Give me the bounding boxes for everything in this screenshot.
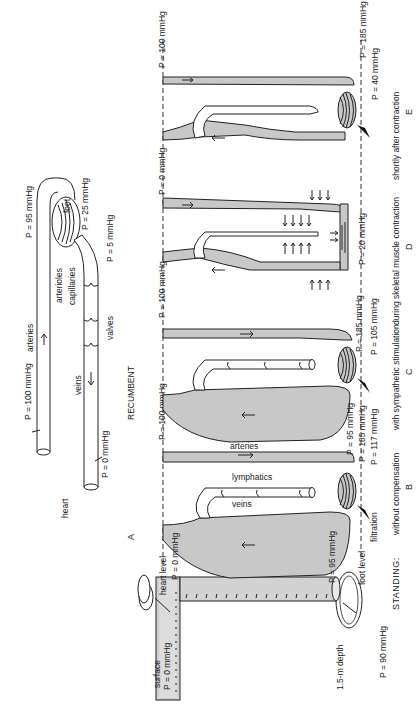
panel-b-filtration-label: filtration — [369, 512, 379, 542]
depth-label: 1.5-m depth — [335, 644, 345, 690]
panel-a-valves-label: valves — [105, 316, 115, 340]
panel-a-veins-label: veins — [73, 375, 83, 395]
panel-b-vein-heart-pressure: P = 0 mmHg — [170, 532, 180, 580]
panel-d-capillary-bed — [340, 204, 348, 270]
panel-a-foot-label: foot — [62, 198, 72, 213]
panel-a-arterioles-label: arterioles — [54, 268, 64, 303]
panel-e-filtration-arrow-icon — [357, 125, 370, 138]
surface-label: surface — [152, 660, 162, 688]
panel-a-artery-end — [37, 449, 50, 455]
panel-a-heart-label: heart — [60, 498, 70, 518]
panel-e-letter: E — [404, 108, 414, 115]
panel-d-letter: D — [404, 243, 414, 250]
panel-e-caption: shortly after contraction — [391, 91, 401, 180]
panel-b-caption: without compensation — [391, 453, 401, 536]
panel-c-letter: C — [404, 368, 414, 375]
water-column: surface P = 0 mmHg 1.5-m depth P = 90 mm… — [138, 572, 388, 700]
panel-e-artery-heart-pressure: P = 100 mmHg — [157, 11, 167, 68]
panel-a-vein — [74, 235, 98, 487]
panel-b-vein — [163, 512, 350, 578]
panel-d-caption: during skeletal muscle contraction — [391, 197, 401, 325]
panel-a-letter: A — [126, 533, 136, 540]
panel-b-artery-foot-pressure: P = 185 mmHg — [357, 405, 367, 462]
depth-pressure: P = 90 mmHg — [378, 626, 388, 678]
panel-a-capillaries-label: capillaries — [67, 267, 77, 305]
panel-e-vein-heart-pressure: P = 0 mmHg — [157, 147, 167, 195]
panel-e-artery-foot-pressure: P = 185 mmHg — [358, 1, 368, 58]
panel-a-vein-heart-pressure: P = 0 mmHg — [100, 430, 110, 478]
panel-d-vein-foot-pressure: P = 20 mmHg — [357, 213, 367, 265]
panel-e: P = 100 mmHg P = 0 mmHg P = 185 mmHg P =… — [157, 1, 414, 195]
panel-c-artery-foot-pressure: P = 185 mmHg — [354, 295, 364, 352]
panel-c-lymphatic — [193, 360, 312, 390]
foot-level-label: foot level — [357, 551, 367, 585]
panel-c-capillary-pressure: P = 105 mmHg — [369, 298, 379, 355]
panel-c-vein — [163, 386, 350, 442]
panel-a-arteriole-pressure: P = 95 mmHg — [24, 186, 34, 238]
heart-level-label: heart level — [158, 556, 168, 595]
panel-c-vein-foot-pressure: P = 95 mmHg — [345, 403, 355, 455]
panel-b-vein-foot-pressure: P = 95 mmHg — [327, 531, 337, 583]
panel-a-caption: RECUMBENT — [126, 366, 136, 420]
panel-a-capillary-pressure: P = 25 mmHg — [80, 178, 90, 230]
panel-b-lymphatics-label: lymphatics — [232, 472, 272, 482]
panel-e-vein — [163, 120, 345, 140]
surface-pressure: P = 0 mmHg — [162, 642, 172, 690]
panel-d-vein — [163, 248, 340, 270]
panel-b-letter: B — [404, 483, 414, 490]
panel-a-venule-pressure: P = 5 mmHg — [105, 214, 115, 262]
panel-a: P = 100 mmHg P = 0 mmHg heart arteries v… — [23, 178, 136, 540]
standing-label: STANDING: — [391, 557, 401, 610]
panel-e-capillary-pressure: P = 40 mmHg — [370, 48, 380, 100]
panel-c-filtration-arrow-icon — [357, 378, 370, 393]
panel-b-arteries-label: arteries — [230, 441, 258, 451]
panel-b-veins-label: veins — [232, 499, 252, 509]
panel-b-capillary-pressure: P = 117 mmHg — [369, 409, 379, 465]
panel-c-caption: with sympathetic stimulation — [391, 324, 401, 431]
panel-b-artery — [163, 452, 354, 462]
panel-a-artery-heart-pressure: P = 100 mmHg — [23, 363, 33, 420]
panel-c-artery-heart-pressure: P = 100 mmHg — [157, 261, 167, 318]
panel-a-vein-end — [84, 484, 98, 490]
panel-c-artery — [163, 329, 352, 340]
circulation-figure: P = 100 mmHg P = 0 mmHg heart arteries v… — [0, 0, 417, 722]
panel-a-arteries-label: arteries — [25, 324, 35, 352]
